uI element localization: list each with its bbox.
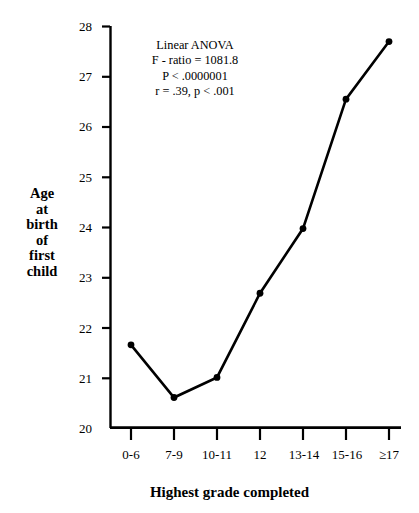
x-tick-label: 7-9: [165, 448, 182, 461]
x-tick-label: 0-6: [122, 448, 139, 461]
plot-area: [0, 0, 419, 513]
data-point: [214, 374, 221, 381]
data-point: [171, 394, 178, 401]
data-point: [300, 225, 307, 232]
x-tick-label: 13-14: [289, 448, 319, 461]
x-tick-label: 12: [254, 448, 267, 461]
y-axis-ticks: [102, 27, 110, 379]
data-point: [257, 290, 264, 297]
chart-figure: Age at birth of first child 28 27 26 25 …: [0, 0, 419, 513]
x-axis-title: Highest grade completed: [0, 484, 419, 501]
x-tick-label: ≥17: [379, 448, 399, 461]
data-markers: [128, 38, 393, 401]
data-point: [386, 38, 393, 45]
x-axis-ticks: [131, 428, 389, 440]
x-tick-label: 10-11: [202, 448, 232, 461]
data-point: [128, 341, 135, 348]
data-point: [343, 96, 350, 103]
x-tick-label: 15-16: [332, 448, 362, 461]
data-line: [131, 42, 389, 398]
